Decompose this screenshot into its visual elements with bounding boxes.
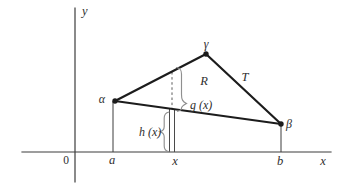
diagram-canvas: y x 0 a x b α γ β R T g (x) h (x) <box>0 0 350 192</box>
tick-label-b: b <box>277 154 283 168</box>
vertex-label-beta: β <box>285 117 292 131</box>
side-label-T: T <box>242 70 250 84</box>
x-axis-label: x <box>319 154 326 168</box>
region-label-R: R <box>199 74 208 88</box>
tick-label-a: a <box>109 153 115 167</box>
vertex-dot-beta <box>278 121 283 126</box>
origin-label: 0 <box>63 154 69 166</box>
vertex-dot-alpha <box>112 98 117 103</box>
math-diagram: y x 0 a x b α γ β R T g (x) h (x) <box>0 0 350 192</box>
tick-label-x: x <box>171 154 178 168</box>
vertex-label-gamma: γ <box>204 37 209 51</box>
g-of-x-label: g (x) <box>190 98 212 112</box>
vertex-dot-gamma <box>203 51 208 56</box>
vertex-label-alpha: α <box>99 92 106 106</box>
h-of-x-label: h (x) <box>139 125 161 139</box>
y-axis-label: y <box>80 4 88 18</box>
